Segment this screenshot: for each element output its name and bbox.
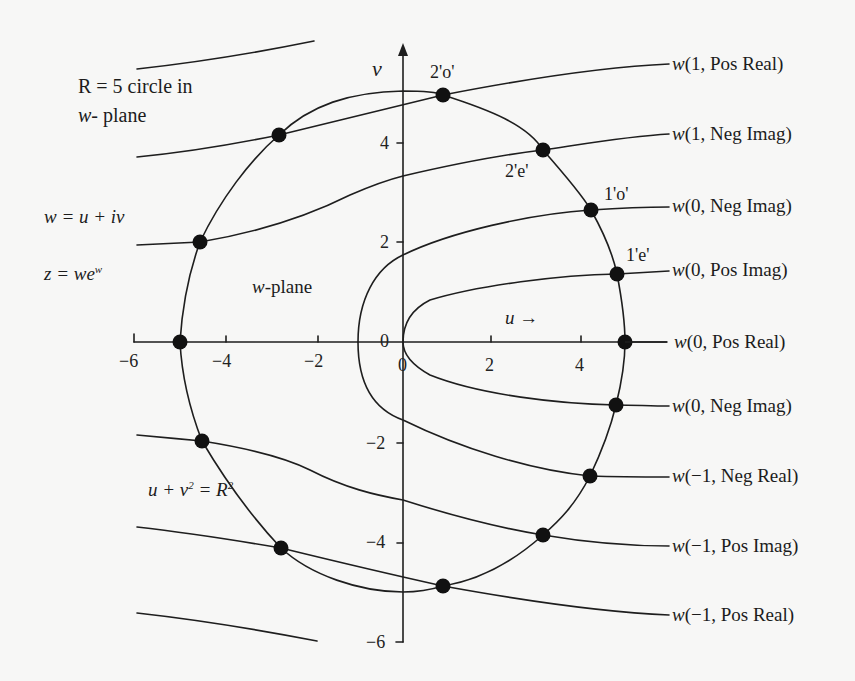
x-tick-neg2: −2 bbox=[304, 352, 323, 370]
series-w: w bbox=[672, 395, 685, 416]
curve-w-0-neg-imag-lower bbox=[403, 342, 669, 406]
title-line1: R = 5 circle in bbox=[78, 76, 193, 96]
series-w: w bbox=[672, 465, 685, 486]
z-definition: z = wew bbox=[44, 264, 102, 283]
point-right-neg3 bbox=[536, 528, 551, 543]
y-tick-2: 2 bbox=[380, 233, 389, 251]
point-left-down2 bbox=[274, 541, 289, 556]
v-axis-ticks bbox=[396, 143, 403, 642]
point-label-1o: 1'o' bbox=[604, 185, 629, 203]
series-w: w bbox=[672, 259, 685, 280]
title-line2-text: plane bbox=[103, 104, 146, 126]
series-args: (1, Pos Real) bbox=[685, 53, 784, 74]
y-tick-neg4: −4 bbox=[366, 533, 385, 551]
y-tick-0: 0 bbox=[380, 332, 389, 350]
point-2e bbox=[536, 143, 551, 158]
point-label-1e: 1'e' bbox=[626, 246, 649, 264]
point-right-neg2 bbox=[583, 469, 598, 484]
curve-bottom-left bbox=[137, 613, 317, 641]
point-2o bbox=[436, 88, 451, 103]
x-tick-0: 0 bbox=[398, 356, 407, 374]
series-args: (−1, Pos Real) bbox=[685, 604, 794, 625]
point-right-neg1 bbox=[609, 398, 624, 413]
series-label-w-1-neg-imag: w(1, Neg Imag) bbox=[672, 124, 792, 143]
w-plane-w: w bbox=[252, 276, 265, 297]
series-w: w bbox=[672, 195, 685, 216]
series-args: (1, Neg Imag) bbox=[685, 123, 792, 144]
series-w: w bbox=[672, 53, 685, 74]
title-line2: w- plane bbox=[78, 105, 146, 125]
w-plane-text: -plane bbox=[265, 276, 312, 297]
series-label-w-neg1-neg-real: w(−1, Neg Real) bbox=[672, 466, 798, 485]
series-label-w-0-neg-imag-lower: w(0, Neg Imag) bbox=[672, 396, 792, 415]
curve-equation: u + v2 = R2 bbox=[148, 480, 233, 499]
series-args: (−1, Pos Imag) bbox=[685, 535, 799, 556]
series-w: w bbox=[674, 331, 687, 352]
point-1e bbox=[610, 267, 625, 282]
w-plane-label: w-plane bbox=[252, 277, 312, 296]
point-left-up2 bbox=[193, 235, 208, 250]
series-args: (0, Neg Imag) bbox=[685, 195, 792, 216]
series-w: w bbox=[672, 604, 685, 625]
series-w: w bbox=[672, 123, 685, 144]
series-label-w-1-pos-real: w(1, Pos Real) bbox=[672, 54, 783, 73]
x-tick-4: 4 bbox=[575, 356, 584, 374]
point-left-up1 bbox=[272, 128, 287, 143]
point-bottom bbox=[436, 579, 451, 594]
series-label-w-0-pos-real: w(0, Pos Real) bbox=[674, 332, 785, 351]
eq-sup2: 2 bbox=[228, 479, 234, 491]
series-label-w-neg1-pos-real: w(−1, Pos Real) bbox=[672, 605, 794, 624]
point-label-2e: 2'e' bbox=[505, 162, 528, 180]
eq-lhs: u + v bbox=[148, 479, 188, 500]
point-left-axis bbox=[173, 335, 188, 350]
x-tick-neg6: −6 bbox=[119, 352, 138, 370]
y-tick-4: 4 bbox=[380, 134, 389, 152]
v-axis-arrow-icon bbox=[398, 43, 408, 56]
series-label-w-0-neg-imag-upper: w(0, Neg Imag) bbox=[672, 196, 792, 215]
series-label-w-neg1-pos-imag: w(−1, Pos Imag) bbox=[672, 536, 798, 555]
y-tick-neg2: −2 bbox=[366, 434, 385, 452]
z-def-exponent: w bbox=[95, 263, 102, 275]
point-label-2o: 2'o' bbox=[430, 63, 455, 81]
x-tick-2: 2 bbox=[485, 356, 494, 374]
eq-mid: = R bbox=[194, 479, 228, 500]
z-def-base: z = we bbox=[44, 263, 95, 284]
series-args: (0, Pos Real) bbox=[687, 331, 786, 352]
point-1o bbox=[584, 203, 599, 218]
y-tick-neg6: −6 bbox=[366, 633, 385, 651]
u-arrow-label: u → bbox=[505, 308, 538, 327]
series-args: (−1, Neg Real) bbox=[685, 465, 799, 486]
point-left-down1 bbox=[195, 434, 210, 449]
series-label-w-0-pos-imag: w(0, Pos Imag) bbox=[672, 260, 788, 279]
w-definition: w = u + iv bbox=[44, 207, 125, 226]
curve-top-left bbox=[137, 41, 314, 69]
v-axis-label: v bbox=[372, 58, 382, 80]
series-args: (0, Neg Imag) bbox=[685, 395, 792, 416]
title-line2-prefix: w- bbox=[78, 104, 98, 126]
series-w: w bbox=[672, 535, 685, 556]
x-tick-neg4: −4 bbox=[212, 352, 231, 370]
series-args: (0, Pos Imag) bbox=[685, 259, 788, 280]
